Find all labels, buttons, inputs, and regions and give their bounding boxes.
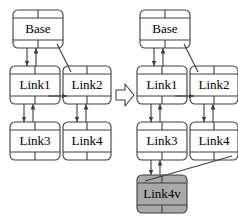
component-node-base_r[interactable] (140, 10, 190, 48)
component-node-base_l[interactable] (13, 10, 63, 48)
edge-link2_r-to-link4_r[interactable] (204, 104, 213, 122)
edge-link1_l-to-link3_l[interactable] (24, 104, 33, 122)
component-node-link4v[interactable] (137, 175, 187, 213)
component-node-link3_l[interactable] (10, 122, 60, 160)
diagram-canvas: BaseLink1Link2Link3Link4BaseLink1Link2Li… (0, 0, 238, 219)
component-node-link4_l[interactable] (63, 122, 111, 160)
edge-base_r-to-link1_r[interactable] (154, 48, 163, 66)
component-node-link1_l[interactable] (10, 66, 60, 104)
component-node-link4_r[interactable] (190, 122, 238, 160)
edge-link1_r-to-link3_r[interactable] (151, 104, 160, 122)
edge-link3_r-to-link4v[interactable] (151, 160, 160, 175)
component-node-link2_r[interactable] (190, 66, 238, 104)
edge-link2_l-to-link4_l[interactable] (77, 104, 86, 122)
diagram-graphics (0, 0, 238, 219)
component-node-link3_r[interactable] (137, 122, 187, 160)
component-node-link1_r[interactable] (137, 66, 187, 104)
component-node-link2_l[interactable] (63, 66, 111, 104)
edge-base_l-to-link1_l[interactable] (27, 48, 36, 66)
block-arrow-right-icon (116, 84, 134, 106)
